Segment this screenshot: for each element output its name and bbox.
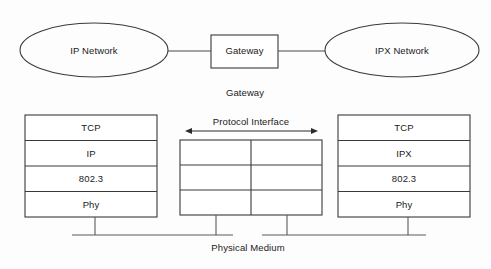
network-gateway-diagram: IP Network Gateway IPX Network Gateway P… (0, 0, 491, 269)
ipx-network-label: IPX Network (375, 46, 429, 56)
protocol-interface-label: Protocol Interface (213, 117, 289, 127)
left-stack-layer-phy: Phy (83, 200, 100, 210)
gateway-caption: Gateway (226, 88, 264, 98)
right-stack-layer-ipx: IPX (396, 149, 412, 159)
diagram-canvas (0, 0, 491, 269)
ip-network-label: IP Network (70, 46, 117, 56)
physical-medium-label: Physical Medium (211, 243, 284, 253)
protocol-interface-arrow-left-head (185, 128, 192, 134)
left-stack-layer-8023: 802.3 (79, 174, 103, 184)
left-stack-layer-tcp: TCP (81, 123, 100, 133)
right-stack-layer-phy: Phy (396, 200, 413, 210)
protocol-interface-arrow-right-head (311, 128, 318, 134)
right-stack-layer-tcp: TCP (394, 123, 413, 133)
right-stack-layer-8023: 802.3 (392, 174, 416, 184)
gateway-box-label: Gateway (225, 46, 263, 56)
left-stack-layer-ip: IP (86, 149, 95, 159)
